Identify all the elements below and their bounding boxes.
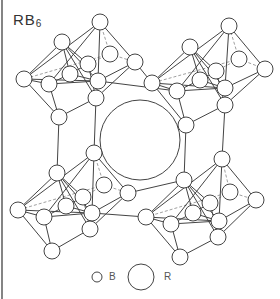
octahedron-top-right — [144, 18, 273, 133]
legend-label-b: B — [109, 271, 116, 282]
boron-atom — [80, 56, 96, 72]
boron-atom — [44, 243, 60, 259]
boron-atom — [211, 213, 227, 229]
boron-atom — [102, 46, 118, 62]
boron-atom — [192, 72, 208, 88]
boron-atom — [84, 205, 100, 221]
formula-base: RB — [13, 11, 36, 28]
octahedron-bottom-right — [138, 151, 264, 265]
legend-swatch-r — [128, 264, 154, 290]
boron-atom — [96, 177, 112, 193]
boron-atom — [16, 71, 32, 87]
boron-atom — [90, 73, 106, 89]
boron-atom — [176, 172, 192, 188]
legend — [92, 264, 154, 290]
boron-atom — [178, 117, 194, 133]
boron-atom — [217, 80, 233, 96]
boron-atom — [138, 209, 154, 225]
central-r-atom — [100, 100, 180, 180]
boron-atom — [185, 205, 201, 221]
boron-atom — [10, 202, 26, 218]
boron-atom — [172, 249, 188, 265]
boron-atom — [92, 14, 108, 30]
boron-atom — [88, 90, 104, 106]
boron-atom — [49, 165, 65, 181]
boron-atom — [82, 221, 98, 237]
boron-atom — [58, 198, 74, 214]
boron-atom — [257, 61, 273, 77]
boron-atom — [208, 63, 224, 79]
legend-label-r: R — [164, 271, 171, 282]
boron-atom — [75, 189, 91, 205]
octahedron-top-left — [16, 14, 143, 125]
boron-atom — [36, 209, 52, 225]
boron-atom — [182, 39, 198, 55]
crystal-lattice-figure — [0, 0, 280, 299]
boron-atom — [163, 216, 179, 232]
boron-atom — [127, 54, 143, 70]
boron-atom — [202, 195, 218, 211]
boron-atom — [222, 184, 238, 200]
bond-line — [98, 81, 177, 91]
formula-title: RB6 — [13, 11, 42, 29]
boron-atom — [210, 229, 226, 245]
boron-atom — [144, 75, 160, 91]
bond-line — [225, 26, 229, 88]
bond-line — [98, 22, 100, 81]
boron-atom — [248, 192, 264, 208]
boron-atom — [62, 66, 78, 82]
boron-octahedra — [10, 14, 273, 265]
boron-atom — [120, 185, 136, 201]
boron-atom — [86, 145, 102, 161]
boron-atom — [169, 83, 185, 99]
bond-line — [24, 79, 98, 81]
octahedron-bottom-left — [10, 145, 136, 259]
bond-line — [219, 159, 222, 221]
boron-atom — [51, 109, 67, 125]
boron-atom — [54, 34, 70, 50]
formula-subscript: 6 — [36, 18, 43, 29]
boron-atom — [231, 51, 247, 67]
legend-swatch-b — [92, 272, 102, 282]
boron-atom — [221, 18, 237, 34]
boron-atom — [214, 151, 230, 167]
boron-atom — [41, 76, 57, 92]
bond-line — [92, 153, 94, 213]
bond-line — [128, 180, 184, 193]
boron-atom — [217, 97, 233, 113]
